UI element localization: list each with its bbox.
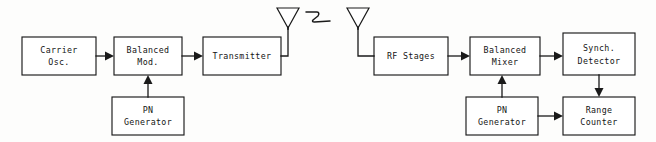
balanced-mod-label-line1: Balanced (127, 45, 170, 55)
pn-generator-rx-label-line1: PN (497, 105, 508, 115)
block-pn-generator-rx: PN Generator (466, 97, 538, 135)
range-counter-label-line1: Range (586, 105, 613, 115)
transmit-antenna (277, 8, 299, 30)
connector-mod-to-transmitter (182, 52, 203, 61)
receive-antenna (347, 8, 369, 30)
range-counter-label-line2: Counter (580, 117, 617, 127)
arrowhead-pn-to-counter (554, 112, 563, 121)
arrowhead-mod-to-transmitter (194, 52, 203, 61)
pn-generator-tx-label-line2: Generator (124, 117, 172, 127)
block-balanced-mixer: Balanced Mixer (470, 37, 540, 75)
connector-detector-to-counter (595, 75, 604, 97)
arrowhead-pn-to-mixer (498, 75, 507, 84)
block-rf-stages: RF Stages (374, 37, 448, 75)
carrier-osc-label-line1: Carrier (40, 45, 77, 55)
arrowhead-pn-to-mod (144, 75, 153, 84)
balanced-mixer-label-line2: Mixer (492, 57, 519, 67)
pn-generator-rx-label-line2: Generator (478, 117, 526, 127)
connector-mixer-to-detector (540, 52, 563, 61)
arrowhead-detector-to-counter (595, 88, 604, 97)
transmit-antenna-cone-icon (277, 8, 299, 28)
arrowhead-mixer-to-detector (554, 52, 563, 61)
rf-stages-label: RF Stages (387, 51, 435, 61)
block-balanced-mod: Balanced Mod. (114, 37, 182, 75)
receive-antenna-cone-icon (347, 8, 369, 28)
arrowhead-rf-to-mixer (461, 52, 470, 61)
connector-pn-to-mod (144, 75, 153, 97)
diagram-canvas: Carrier Osc. Balanced Mod. Transmitter P… (0, 0, 656, 142)
transmitter-label: Transmitter (213, 51, 272, 61)
block-synch-detector: Synch. Detector (563, 33, 635, 75)
synch-detector-label-line1: Synch. (583, 43, 615, 53)
block-carrier-osc: Carrier Osc. (22, 37, 96, 75)
block-transmitter: Transmitter (203, 37, 281, 75)
connector-carrier-to-mod (96, 52, 114, 61)
radio-wave-squiggle-icon (306, 12, 330, 22)
connector-pn-to-mixer (498, 75, 507, 97)
connector-pn-to-counter (538, 112, 563, 121)
arrowhead-carrier-to-mod (105, 52, 114, 61)
pn-generator-tx-label-line1: PN (143, 105, 154, 115)
balanced-mod-label-line2: Mod. (137, 57, 158, 67)
carrier-osc-label-line2: Osc. (48, 57, 69, 67)
balanced-mixer-label-line1: Balanced (484, 45, 527, 55)
synch-detector-label-line2: Detector (578, 56, 621, 66)
block-pn-generator-tx: PN Generator (112, 97, 184, 135)
connector-rf-to-mixer (448, 52, 470, 61)
synch-detector-box (563, 33, 635, 75)
block-diagram: Carrier Osc. Balanced Mod. Transmitter P… (0, 0, 656, 142)
block-range-counter: Range Counter (563, 97, 635, 135)
connector-transmitter-to-antenna (281, 28, 288, 56)
connector-antenna-to-rf (358, 28, 374, 56)
